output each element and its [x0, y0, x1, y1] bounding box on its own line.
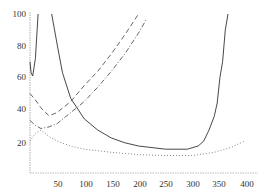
y-tick-80: 80 [17, 41, 27, 51]
series-dashed [30, 14, 139, 116]
y-axis: 100 80 60 40 20 [13, 9, 31, 173]
x-tick-150: 150 [106, 179, 120, 189]
x-tick-400: 400 [240, 179, 254, 189]
x-tick-200: 200 [133, 179, 147, 189]
series-dash-dot [30, 19, 147, 129]
y-tick-60: 60 [17, 72, 27, 82]
x-tick-100: 100 [79, 179, 93, 189]
y-tick-100: 100 [13, 9, 27, 19]
x-tick-300: 300 [186, 179, 200, 189]
x-axis: 50 100 150 200 250 300 350 400 [30, 173, 258, 189]
series-layer [30, 14, 244, 156]
line-chart: 100 80 60 40 20 50 100 150 200 250 300 3… [0, 0, 274, 195]
series-dotted [30, 130, 244, 155]
x-tick-50: 50 [54, 179, 64, 189]
y-tick-40: 40 [17, 104, 27, 114]
series-solid [30, 14, 228, 149]
x-tick-250: 250 [159, 179, 173, 189]
y-tick-20: 20 [17, 138, 27, 148]
x-tick-350: 350 [212, 179, 226, 189]
